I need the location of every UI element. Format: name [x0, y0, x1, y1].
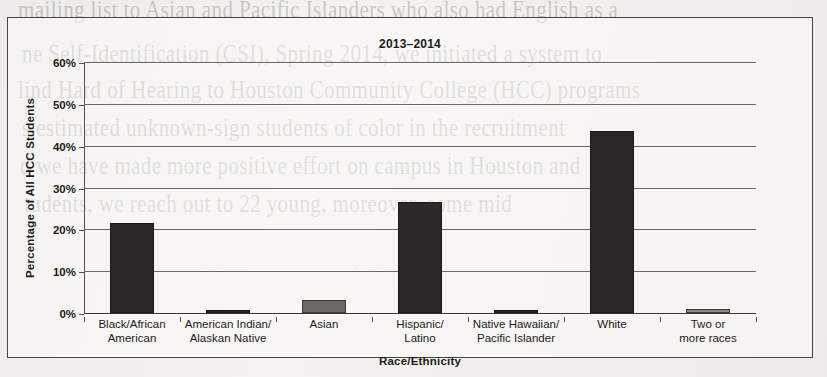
x-axis-label: Black/AfricanAmerican	[84, 317, 180, 345]
bar[interactable]	[302, 300, 346, 313]
y-axis-title-text: Percentage of All HCC Students	[24, 97, 36, 277]
bar-slot	[372, 62, 468, 313]
x-axis-label-line: Two or	[662, 317, 754, 331]
x-axis-tick	[756, 317, 757, 322]
y-axis-tick-label: 0%	[59, 308, 76, 320]
bar[interactable]	[398, 202, 442, 313]
x-axis-tick	[372, 317, 373, 322]
bar-slot	[468, 62, 564, 313]
x-axis-tick	[84, 317, 85, 322]
bar[interactable]	[590, 131, 634, 313]
y-axis-title: Percentage of All HCC Students	[22, 62, 38, 313]
x-axis-tick	[276, 317, 277, 322]
x-axis-label-line: Hispanic/	[374, 317, 466, 331]
x-axis-label-line: American Indian/	[182, 317, 274, 331]
x-axis-label-line: Pacific Islander	[470, 331, 562, 345]
bar-slot	[180, 62, 276, 313]
bar[interactable]	[494, 310, 538, 313]
bar-slot	[84, 62, 180, 313]
x-axis-label-line: Asian	[278, 317, 370, 331]
bars-layer	[84, 62, 756, 313]
x-axis-label: American Indian/Alaskan Native	[180, 317, 276, 345]
chart-title: 2013–2014	[8, 37, 812, 51]
chart-frame: 2013–2014 Percentage of All HCC Students…	[7, 17, 813, 358]
plot-area: 0%10%20%30%40%50%60%	[84, 62, 756, 313]
y-axis-tick-label: 10%	[53, 266, 76, 278]
bar[interactable]	[206, 310, 250, 313]
x-axis-label: Native Hawaiian/Pacific Islander	[468, 317, 564, 345]
y-axis-tick-label: 40%	[53, 141, 76, 153]
x-axis-tick	[660, 317, 661, 322]
y-axis-tick-label: 60%	[53, 57, 76, 69]
bar-slot	[564, 62, 660, 313]
x-axis-tick	[564, 317, 565, 322]
bar[interactable]	[110, 223, 154, 313]
y-axis-tick-label: 50%	[53, 99, 76, 111]
x-axis-label-line: more races	[662, 331, 754, 345]
bar-slot	[276, 62, 372, 313]
x-axis-tick	[468, 317, 469, 322]
x-axis-label-line: Black/African	[86, 317, 178, 331]
scanned-page: mailing list to Asian and Pacific Island…	[0, 0, 827, 377]
bar[interactable]	[686, 309, 730, 313]
x-axis-label-line: White	[566, 317, 658, 331]
y-axis-tick-label: 20%	[53, 224, 76, 236]
bar-slot	[660, 62, 756, 313]
x-axis-label-line: Latino	[374, 331, 466, 345]
x-axis-labels: Black/AfricanAmericanAmerican Indian/Ala…	[84, 317, 756, 345]
x-axis-label-line: Native Hawaiian/	[470, 317, 562, 331]
x-axis-title: Race/Ethnicity	[84, 355, 756, 367]
x-axis-label: Two ormore races	[660, 317, 756, 345]
x-axis-label: Asian	[276, 317, 372, 345]
x-axis-label-line: Alaskan Native	[182, 331, 274, 345]
x-axis-label-line: American	[86, 331, 178, 345]
gridline: 0%	[84, 313, 756, 314]
y-axis-tick-label: 30%	[53, 183, 76, 195]
x-axis-label: Hispanic/Latino	[372, 317, 468, 345]
x-axis-tick	[180, 317, 181, 322]
y-axis-tick	[79, 314, 84, 315]
x-axis-label: White	[564, 317, 660, 345]
